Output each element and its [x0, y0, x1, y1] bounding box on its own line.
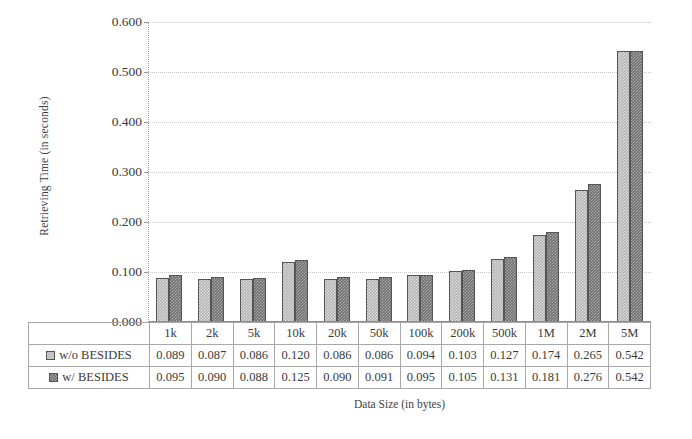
- table-cell: 0.103: [442, 345, 484, 367]
- bar: [156, 278, 169, 323]
- bar: [324, 279, 337, 322]
- legend-label: w/ BESIDES: [62, 370, 128, 384]
- table-cell: 0.090: [317, 367, 359, 389]
- table-cell: 0.127: [484, 345, 526, 367]
- table-cell: 0.276: [567, 367, 609, 389]
- table-cell: 0.174: [525, 345, 567, 367]
- bar-group: [232, 22, 274, 322]
- table-row: w/o BESIDES0.0890.0870.0860.1200.0860.08…: [29, 345, 651, 367]
- y-tick-label: 0.400: [84, 115, 142, 129]
- table-cell: 0.105: [442, 367, 484, 389]
- legend-entry: w/ BESIDES: [29, 367, 150, 389]
- bar: [420, 275, 433, 323]
- y-tick-label: 0.100: [84, 265, 142, 279]
- bar: [504, 257, 517, 323]
- table-cell: 0.542: [609, 345, 651, 367]
- bar: [240, 279, 253, 322]
- table-column-header: 200k: [442, 323, 484, 345]
- y-tick-label: 0.600: [84, 15, 142, 29]
- table-column-header: 10k: [275, 323, 317, 345]
- plot-area: [148, 22, 651, 322]
- bar: [546, 232, 559, 323]
- table-row: w/ BESIDES0.0950.0900.0880.1250.0900.091…: [29, 367, 651, 389]
- table-column-header: 1k: [150, 323, 192, 345]
- bar: [295, 260, 308, 323]
- bar: [366, 279, 379, 322]
- y-tick-label: 0.300: [84, 165, 142, 179]
- table-column-header: 1M: [525, 323, 567, 345]
- table-cell: 0.088: [233, 367, 275, 389]
- bar-group: [441, 22, 483, 322]
- legend-swatch-icon: [46, 351, 55, 360]
- bar-group: [609, 22, 651, 322]
- bar-group: [358, 22, 400, 322]
- table-cell: 0.125: [275, 367, 317, 389]
- table-column-header: 20k: [317, 323, 359, 345]
- bar: [575, 190, 588, 323]
- table-column-header: 5M: [609, 323, 651, 345]
- table-cell: 0.095: [400, 367, 442, 389]
- legend-entry: w/o BESIDES: [29, 345, 150, 367]
- bars-layer: [148, 22, 651, 322]
- data-table-container: 1k2k5k10k20k50k100k200k500k1M2M5M w/o BE…: [28, 322, 652, 389]
- y-tick-label: 0.200: [84, 215, 142, 229]
- legend-swatch-icon: [49, 373, 58, 382]
- bar: [253, 278, 266, 322]
- bar: [379, 277, 392, 323]
- bar-group: [400, 22, 442, 322]
- table-corner-cell: [29, 323, 150, 345]
- bar-group: [274, 22, 316, 322]
- bar: [282, 262, 295, 322]
- bar: [407, 275, 420, 322]
- table-cell: 0.120: [275, 345, 317, 367]
- legend-label: w/o BESIDES: [59, 348, 132, 362]
- table-cell: 0.542: [609, 367, 651, 389]
- table-cell: 0.131: [484, 367, 526, 389]
- table-column-header: 2M: [567, 323, 609, 345]
- bar-group: [567, 22, 609, 322]
- bar: [462, 270, 475, 323]
- table-cell: 0.086: [358, 345, 400, 367]
- table-cell: 0.086: [317, 345, 359, 367]
- bar-chart: Retrieving Time (in seconds) 0.0000.1000…: [0, 0, 692, 439]
- bar: [449, 271, 462, 323]
- bar-group: [483, 22, 525, 322]
- bar: [337, 277, 350, 322]
- table-column-header: 5k: [233, 323, 275, 345]
- table-cell: 0.094: [400, 345, 442, 367]
- data-table: 1k2k5k10k20k50k100k200k500k1M2M5M w/o BE…: [28, 322, 651, 389]
- y-tick-label: 0.500: [84, 65, 142, 79]
- table-cell: 0.086: [233, 345, 275, 367]
- bar: [198, 279, 211, 323]
- table-cell: 0.089: [150, 345, 192, 367]
- bar: [630, 51, 643, 322]
- bar: [617, 51, 630, 322]
- bar: [588, 184, 601, 322]
- bar: [169, 275, 182, 323]
- table-cell: 0.181: [525, 367, 567, 389]
- bar: [533, 235, 546, 322]
- x-axis-title: Data Size (in bytes): [148, 398, 651, 410]
- bar-group: [316, 22, 358, 322]
- table-column-header: 2k: [191, 323, 233, 345]
- table-cell: 0.087: [191, 345, 233, 367]
- table-column-header: 100k: [400, 323, 442, 345]
- table-cell: 0.265: [567, 345, 609, 367]
- table-cell: 0.095: [150, 367, 192, 389]
- bar: [491, 259, 504, 323]
- bar-group: [525, 22, 567, 322]
- table-column-header: 500k: [484, 323, 526, 345]
- table-column-header: 50k: [358, 323, 400, 345]
- table-cell: 0.091: [358, 367, 400, 389]
- bar: [211, 277, 224, 322]
- bar-group: [148, 22, 190, 322]
- bar-group: [190, 22, 232, 322]
- y-axis-title: Retrieving Time (in seconds): [38, 26, 50, 306]
- table-cell: 0.090: [191, 367, 233, 389]
- table-header-row: 1k2k5k10k20k50k100k200k500k1M2M5M: [29, 323, 651, 345]
